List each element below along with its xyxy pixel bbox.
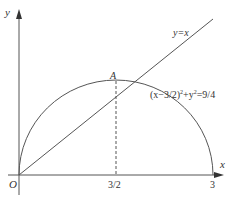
- y-axis-label: y: [4, 6, 10, 18]
- circle-equation-label: (x−3/2)2+y2=9/4: [150, 89, 215, 101]
- tick-label-3-2: 3/2: [108, 179, 121, 190]
- tick-label-3: 3: [210, 179, 215, 190]
- line-equation-label: y=x: [172, 27, 189, 38]
- circle-eq-part3: =9/4: [197, 89, 215, 100]
- diagram-canvas: y x O 3/2 3 A y=x (x−3/2)2+y2=9/4: [0, 0, 235, 201]
- circle-eq-part2: +y: [183, 89, 194, 100]
- circle-eq-part1: (x−3/2): [150, 89, 180, 101]
- x-axis-arrow-icon: [214, 172, 224, 178]
- y-axis-arrow-icon: [16, 9, 22, 19]
- origin-label: O: [9, 178, 17, 190]
- point-a-label: A: [109, 70, 117, 81]
- x-axis-label: x: [219, 158, 225, 170]
